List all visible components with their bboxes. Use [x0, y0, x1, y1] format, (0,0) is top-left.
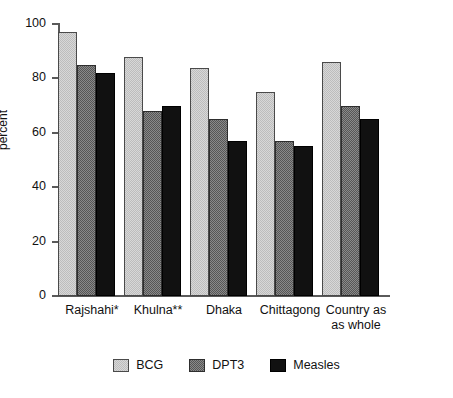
x-axis-label: Country asas whole [311, 303, 401, 333]
y-axis-tick-label: 40 [0, 180, 46, 192]
legend-item-bcg: BCG [113, 358, 163, 372]
bar-measles-0 [96, 73, 115, 296]
legend-swatch-measles [270, 359, 286, 372]
bar-bcg-2 [190, 68, 209, 296]
bar-group [125, 24, 191, 296]
y-axis-tick-label: 80 [0, 71, 46, 83]
legend-swatch-bcg [113, 359, 129, 372]
bar-measles-2 [228, 141, 247, 296]
bar-measles-4 [360, 119, 379, 296]
bar-dpt3-2 [209, 119, 228, 296]
bar-bcg-4 [322, 62, 341, 296]
y-axis-tick-label: 0 [0, 289, 46, 301]
bar-group [323, 24, 389, 296]
bar-dpt3-0 [77, 65, 96, 296]
bar-chart: percent 020406080100 Rajshahi*Khulna**Dh… [0, 0, 453, 398]
y-axis-tick-label: 60 [0, 126, 46, 138]
legend-swatch-dpt3 [189, 359, 205, 372]
x-axis-category-labels: Rajshahi*Khulna**DhakaChittagongCountry … [59, 303, 389, 347]
bar-bcg-3 [256, 92, 275, 296]
chart-legend: BCGDPT3Measles [0, 358, 453, 372]
legend-label: DPT3 [212, 358, 244, 372]
plot-area [59, 24, 389, 296]
bar-dpt3-4 [341, 106, 360, 296]
bar-measles-1 [162, 106, 181, 296]
legend-item-dpt3: DPT3 [189, 358, 244, 372]
legend-label: Measles [293, 358, 340, 372]
bar-group [257, 24, 323, 296]
y-axis-tick-label: 100 [0, 17, 46, 29]
legend-label: BCG [136, 358, 163, 372]
bar-dpt3-1 [143, 111, 162, 296]
y-axis-tick [52, 23, 59, 25]
bar-group [191, 24, 257, 296]
bar-group [59, 24, 125, 296]
bar-bcg-0 [58, 32, 77, 296]
y-axis-tick-label: 20 [0, 235, 46, 247]
legend-item-measles: Measles [270, 358, 340, 372]
bar-bcg-1 [124, 57, 143, 296]
bar-measles-3 [294, 146, 313, 296]
bar-dpt3-3 [275, 141, 294, 296]
